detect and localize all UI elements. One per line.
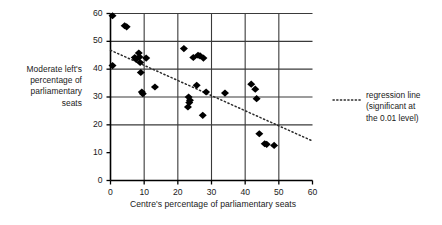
data-point-marker bbox=[199, 112, 207, 119]
data-point-marker bbox=[137, 69, 145, 76]
y-tick-label: 40 bbox=[81, 63, 103, 73]
data-point-marker bbox=[253, 95, 261, 102]
legend: regression line (significant at the 0.01… bbox=[366, 90, 442, 124]
y-axis-label-line-1: Moderate left's bbox=[27, 64, 82, 74]
legend-label-line-3: the 0.01 level) bbox=[366, 113, 442, 124]
x-tick-label: 0 bbox=[100, 187, 122, 197]
x-tick-label: 10 bbox=[133, 187, 155, 197]
y-axis-label-line-2: percentage of bbox=[30, 75, 82, 85]
y-tick-label: 0 bbox=[81, 175, 103, 185]
data-point-marker bbox=[255, 130, 263, 137]
x-tick-label: 40 bbox=[234, 187, 256, 197]
tick-marks bbox=[107, 14, 313, 185]
x-axis-label: Centre's percentage of parliamentary sea… bbox=[88, 199, 338, 209]
data-point-marker bbox=[151, 83, 159, 90]
legend-label-line-1: regression line bbox=[366, 90, 442, 101]
x-tick-label: 50 bbox=[268, 187, 290, 197]
legend-label-line-2: (significant at bbox=[366, 101, 442, 112]
y-tick-label: 10 bbox=[81, 147, 103, 157]
y-tick-label: 60 bbox=[81, 8, 103, 18]
y-axis-label: Moderate left's percentage of parliament… bbox=[2, 64, 82, 109]
data-point-marker bbox=[221, 90, 229, 97]
data-point-marker bbox=[180, 45, 188, 52]
y-tick-label: 50 bbox=[81, 35, 103, 45]
data-point-marker bbox=[142, 54, 150, 61]
y-axis-label-line-4: seats bbox=[62, 98, 82, 108]
y-tick-label: 30 bbox=[81, 91, 103, 101]
gridlines bbox=[111, 14, 313, 181]
x-tick-label: 30 bbox=[201, 187, 223, 197]
data-point-marker bbox=[247, 81, 255, 88]
y-axis-label-line-3: parliamentary bbox=[31, 86, 82, 96]
x-tick-label: 60 bbox=[302, 187, 324, 197]
y-tick-label: 20 bbox=[81, 119, 103, 129]
data-point-marker bbox=[251, 86, 259, 93]
data-point-marker bbox=[270, 142, 278, 149]
scatter-chart-figure: Moderate left's percentage of parliament… bbox=[0, 0, 442, 225]
data-points bbox=[109, 12, 279, 149]
data-point-marker bbox=[202, 88, 210, 95]
x-tick-label: 20 bbox=[167, 187, 189, 197]
